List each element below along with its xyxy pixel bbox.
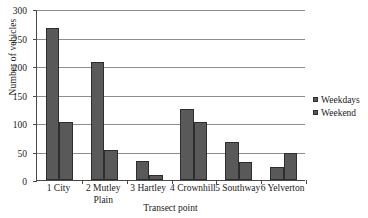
- y-tick-label: 50: [18, 149, 28, 159]
- legend-label: Weekdays: [321, 95, 360, 105]
- bar: [59, 122, 72, 180]
- legend-item: Weekdays: [313, 93, 368, 106]
- y-tick-label: 150: [13, 92, 27, 102]
- bar: [225, 142, 238, 180]
- bar: [136, 161, 149, 180]
- bar: [149, 175, 162, 180]
- y-tick-label: 250: [13, 35, 27, 45]
- bars-layer: [37, 10, 305, 180]
- bar-chart: Number of vehicles 050100150200250300 1 …: [0, 0, 368, 218]
- y-tick-mark: 0: [33, 181, 37, 182]
- bar: [270, 167, 283, 180]
- chart-legend: WeekdaysWeekend: [313, 93, 368, 119]
- x-axis-title: Transect point: [36, 203, 305, 213]
- bar: [91, 62, 104, 180]
- legend-swatch-icon: [313, 97, 318, 102]
- y-tick-label: 100: [13, 120, 27, 130]
- legend-swatch-icon: [313, 110, 318, 115]
- y-tick-label: 300: [13, 6, 27, 16]
- bar: [284, 153, 297, 180]
- x-axis-label: 6 Yelverton: [248, 183, 318, 195]
- legend-item: Weekend: [313, 106, 368, 119]
- bar: [104, 150, 117, 180]
- y-tick-label: 200: [13, 63, 27, 73]
- bar: [180, 109, 193, 180]
- x-axis-label-line: 6 Yelverton: [248, 183, 318, 195]
- plot-area: 050100150200250300: [36, 10, 305, 181]
- bar: [239, 162, 252, 180]
- bar: [194, 122, 207, 180]
- bar: [46, 28, 59, 180]
- legend-label: Weekend: [321, 108, 356, 118]
